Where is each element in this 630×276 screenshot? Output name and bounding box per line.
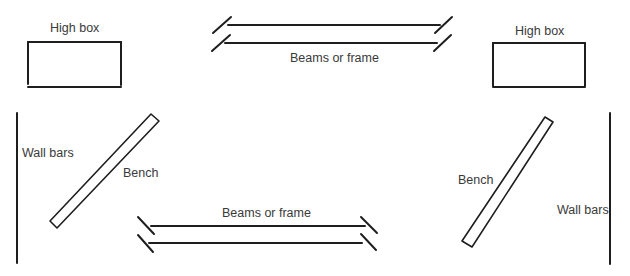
high-box-right	[493, 43, 585, 87]
beams-bottom-label: Beams or frame	[222, 206, 311, 220]
wall-bars-left-label: Wall bars	[22, 146, 74, 160]
gym-layout-diagram	[0, 0, 630, 276]
beams-top	[212, 17, 452, 51]
high-box-left-label: High box	[50, 21, 99, 35]
bench-right-label: Bench	[458, 173, 493, 187]
wall-bars-right-label: Wall bars	[557, 203, 609, 217]
high-box-left	[28, 42, 121, 87]
beams-top-label: Beams or frame	[290, 51, 379, 65]
bench-left-label: Bench	[123, 166, 158, 180]
high-box-right-label: High box	[515, 24, 564, 38]
beams-bottom	[138, 217, 377, 252]
